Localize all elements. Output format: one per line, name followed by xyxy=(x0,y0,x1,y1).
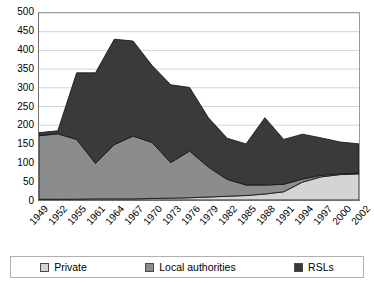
legend-label: RSLs xyxy=(308,262,334,273)
chart-legend: PrivateLocal authoritiesRSLs xyxy=(10,256,364,278)
x-axis-tick-label: 1955 xyxy=(65,203,88,227)
y-axis-tick-label: 300 xyxy=(4,83,34,93)
y-axis-tick-label: 0 xyxy=(4,196,34,206)
legend-swatch-icon xyxy=(294,263,303,272)
legend-item[interactable]: RSLs xyxy=(294,262,334,273)
x-axis-tick-label: 1982 xyxy=(217,203,240,227)
x-axis-tick-label: 1970 xyxy=(141,203,164,227)
x-axis-tick-label: 1991 xyxy=(273,203,296,227)
legend-label: Local authorities xyxy=(159,262,235,273)
y-axis-tick-label: 400 xyxy=(4,45,34,55)
x-axis-tick-label: 1985 xyxy=(235,203,258,227)
x-axis-tick-label: 1952 xyxy=(46,203,69,227)
x-axis-tick-label: 1994 xyxy=(292,203,315,227)
x-axis-tick-label: 1967 xyxy=(122,203,145,227)
x-axis-tick-label: 1979 xyxy=(198,203,221,227)
y-axis-tick-label: 350 xyxy=(4,64,34,74)
legend-swatch-icon xyxy=(40,263,49,272)
area-chart: 500450400350300250200150100500 194919521… xyxy=(0,0,374,283)
x-axis-tick-label: 2000 xyxy=(330,203,353,227)
x-axis-tick-label: 1964 xyxy=(103,203,126,227)
y-axis-tick-label: 150 xyxy=(4,139,34,149)
x-axis-tick-label: 1976 xyxy=(179,203,202,227)
x-axis-tick-label: 2002 xyxy=(349,203,372,227)
x-axis-tick-label: 1973 xyxy=(160,203,183,227)
x-axis: 1949195219551961196419671970197319761979… xyxy=(38,203,360,251)
legend-item[interactable]: Local authorities xyxy=(145,262,235,273)
plot-svg xyxy=(39,13,359,200)
x-axis-tick-label: 1997 xyxy=(311,203,334,227)
y-axis-tick-label: 450 xyxy=(4,26,34,36)
y-axis-tick-label: 100 xyxy=(4,158,34,168)
plot-area xyxy=(38,12,360,201)
legend-item[interactable]: Private xyxy=(40,262,87,273)
y-axis: 500450400350300250200150100500 xyxy=(0,0,34,215)
y-axis-tick-label: 500 xyxy=(4,7,34,17)
y-axis-tick-label: 250 xyxy=(4,102,34,112)
x-axis-tick-label: 1988 xyxy=(254,203,277,227)
legend-label: Private xyxy=(54,262,87,273)
legend-swatch-icon xyxy=(145,263,154,272)
y-axis-tick-label: 50 xyxy=(4,177,34,187)
y-axis-tick-label: 200 xyxy=(4,120,34,130)
x-axis-tick-label: 1961 xyxy=(84,203,107,227)
